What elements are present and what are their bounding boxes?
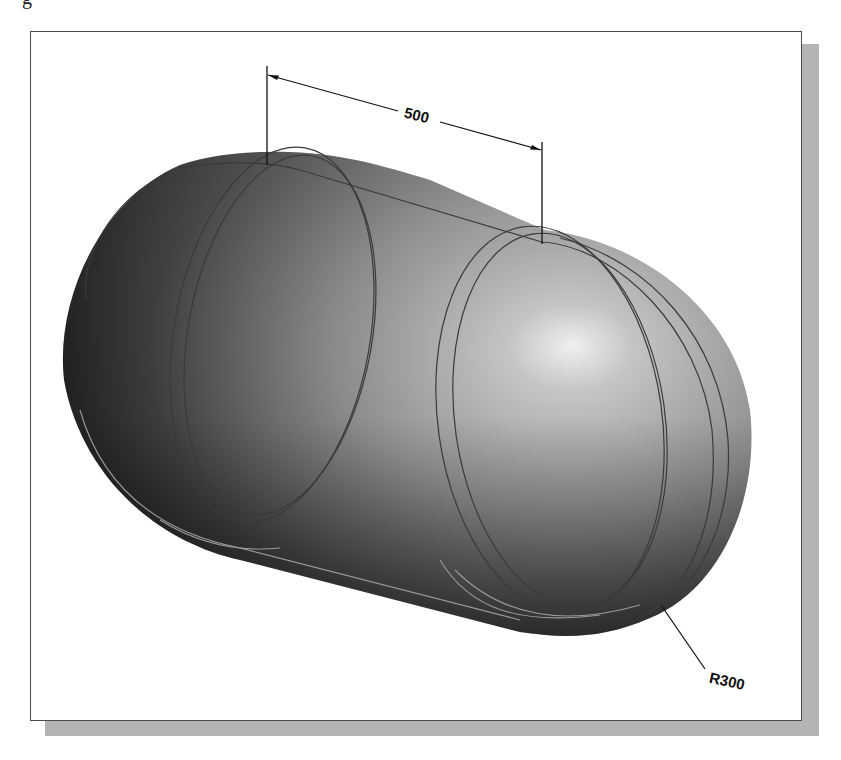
capsule-body [63,152,752,636]
capsule-drawing: 500 R300 [0,0,841,760]
radius-dimension-label: R300 [708,669,747,693]
dimension-line-right [440,122,541,150]
length-dimension-label: 500 [403,104,431,127]
dimension-line-left [268,75,398,111]
arrowhead-left-icon [268,75,279,80]
radius-leader-line [661,605,705,669]
radius-dimension: R300 [661,605,746,693]
arrowhead-right-icon [530,145,541,150]
